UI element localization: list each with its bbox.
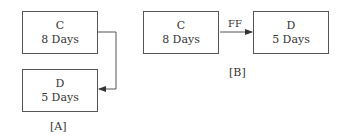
activity-duration: 5 Days [41, 91, 79, 105]
activity-name: C [56, 19, 64, 33]
diagram-a-activity-d: D 5 Days [22, 69, 98, 112]
activity-duration: 5 Days [272, 33, 310, 47]
activity-duration: 8 Days [41, 33, 79, 47]
diagram-a-label: [A] [50, 120, 67, 133]
diagram-b-label: [B] [229, 66, 246, 79]
connector-a [98, 32, 116, 89]
diagram-b-activity-c: C 8 Days [143, 11, 219, 54]
activity-name: D [287, 19, 296, 33]
activity-name: D [56, 77, 65, 91]
diagram-b-activity-d: D 5 Days [253, 11, 329, 54]
activity-duration: 8 Days [162, 33, 200, 47]
activity-name: C [177, 19, 185, 33]
relation-label: FF [228, 18, 242, 29]
diagram-a-activity-c: C 8 Days [22, 11, 98, 54]
